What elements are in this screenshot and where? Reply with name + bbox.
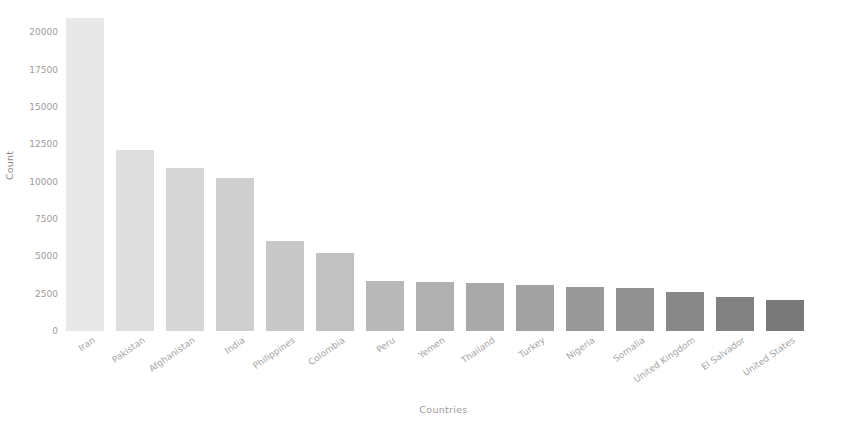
bar	[116, 150, 154, 331]
bar	[466, 283, 504, 331]
x-axis-tick-label-text: Philippines	[251, 335, 296, 371]
x-axis-tick-label-text: Turkey	[517, 335, 547, 360]
bar	[66, 18, 104, 331]
y-axis-tick-label: 12500	[2, 139, 58, 149]
bar	[566, 287, 604, 331]
x-axis-tick-label-text: Nigeria	[565, 335, 597, 362]
x-axis-tick-label-text: Peru	[375, 335, 397, 355]
x-axis-tick-label-text: Colombia	[306, 335, 346, 367]
bar	[416, 282, 454, 331]
y-axis-tick-label: 0	[2, 326, 58, 336]
y-axis-ticks: 02500500075001000012500150001750020000	[0, 0, 58, 428]
x-axis-tick-label-text: Pakistan	[110, 335, 147, 365]
y-axis-tick-label: 5000	[2, 251, 58, 261]
y-axis-tick-label: 15000	[2, 102, 58, 112]
x-axis-tick-label-text: Somalia	[611, 335, 646, 364]
x-axis-tick-label-text: Afghanistan	[147, 335, 197, 374]
bar-chart-figure: Count 0250050007500100001250015000175002…	[0, 0, 857, 428]
y-axis-tick-label: 7500	[2, 214, 58, 224]
y-axis-tick-label: 20000	[2, 27, 58, 37]
x-axis-label-text: Countries	[419, 404, 467, 415]
y-axis-tick-label: 17500	[2, 65, 58, 75]
x-axis-tick-label-text: India	[223, 335, 247, 356]
x-axis-tick-label-text: Thailand	[459, 335, 496, 365]
y-axis-tick-label: 2500	[2, 289, 58, 299]
bar	[166, 168, 204, 331]
x-axis-tick-label-text: Iran	[77, 335, 97, 353]
x-axis-tick-label-text: United States	[741, 335, 797, 378]
bar	[266, 241, 304, 331]
x-axis-tick-label-text: El Salvador	[700, 335, 747, 372]
plot-area	[58, 0, 853, 331]
x-axis-label: Countries	[0, 404, 857, 415]
x-axis-tick-label-text: Yemen	[417, 335, 447, 360]
y-axis-tick-label: 10000	[2, 177, 58, 187]
